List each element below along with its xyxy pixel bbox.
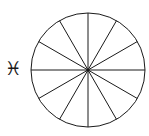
- pisces-icon: ♓: [2, 56, 24, 80]
- zodiac-sector-wheel: ♓: [0, 0, 149, 136]
- wheel-center-hub: [86, 68, 89, 71]
